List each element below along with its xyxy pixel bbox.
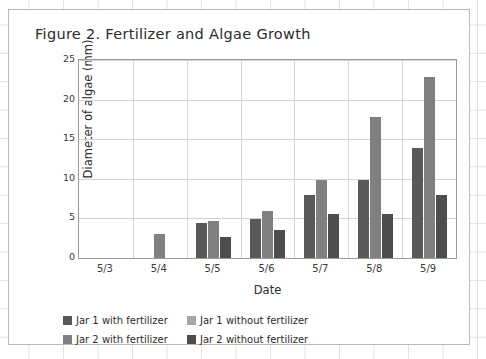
bar [358,180,369,258]
y-tick-label: 15 [49,133,75,143]
legend-item: Jar 1 without fertilizer [187,315,308,326]
bar [220,237,231,258]
legend-color-swatch [187,335,196,344]
legend-color-swatch [63,316,72,325]
chart-panel[interactable]: Figure 2. Fertilizer and Algae Growth Di… [8,9,470,345]
bar [196,223,207,258]
plot-area [78,59,457,259]
gridline-horizontal [79,139,456,140]
y-tick-label: 5 [49,212,75,222]
x-tick-label: 5/8 [347,263,401,275]
bar [316,180,327,258]
x-tick-label: 5/4 [132,263,186,275]
bar [208,221,219,258]
gridline-vertical [133,60,134,258]
gridline-vertical [294,60,295,258]
x-tick-label: 5/5 [186,263,240,275]
legend-color-swatch [187,316,196,325]
x-axis-label: Date [78,283,457,297]
x-tick-label: 5/6 [240,263,294,275]
bar [274,230,285,259]
gridline-vertical [348,60,349,258]
x-axis-tick-labels: 5/35/45/55/65/75/85/9 [78,263,457,281]
bar [370,117,381,258]
gridline-horizontal [79,100,456,101]
chart-title: Figure 2. Fertilizer and Algae Growth [35,26,311,42]
y-tick-label: 20 [49,94,75,104]
gridline-vertical [402,60,403,258]
y-tick-label: 25 [49,54,75,64]
bar [382,214,393,258]
legend-item: Jar 2 without fertilizer [187,334,308,345]
gridline-horizontal [79,60,456,61]
x-tick-label: 5/7 [293,263,347,275]
legend-label: Jar 1 with fertilizer [76,315,168,326]
x-tick-label: 5/3 [78,263,132,275]
bar [328,214,339,258]
gridline-vertical [241,60,242,258]
gridline-horizontal [79,179,456,180]
bar [262,211,273,258]
legend-item: Jar 1 with fertilizer [63,315,168,326]
bar [412,148,423,258]
plot-inner [79,60,456,258]
y-tick-label: 0 [49,252,75,262]
bar [154,234,165,258]
x-tick-label: 5/9 [401,263,455,275]
y-axis-tick-labels: 0510152025 [49,51,75,267]
legend-color-swatch [63,335,72,344]
legend-item: Jar 2 with fertilizer [63,334,168,345]
bar [250,219,261,258]
bar [424,77,435,258]
legend-label: Jar 2 without fertilizer [200,334,308,345]
y-tick-label: 10 [49,173,75,183]
gridline-vertical [187,60,188,258]
legend-label: Jar 1 without fertilizer [200,315,308,326]
bar [304,195,315,258]
legend-label: Jar 2 with fertilizer [76,334,168,345]
bar [436,195,447,258]
chart-legend: Jar 1 with fertilizerJar 1 without ferti… [63,315,393,351]
